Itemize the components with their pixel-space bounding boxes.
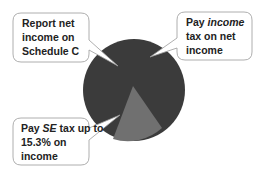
callout-report-line: Report net [22, 16, 79, 30]
emphasis-se: SE [43, 122, 57, 134]
callout-se-tax-text: Pay SE tax up to 15.3% on income [21, 121, 103, 163]
callout-report-text: Report net income on Schedule C [22, 16, 79, 58]
emphasis-income: income [208, 16, 245, 28]
callout-se-tax-line: income [21, 149, 103, 163]
text-prefix: Pay [21, 122, 43, 134]
callout-income-tax-line: Pay income [186, 15, 244, 29]
text-suffix: tax up to [57, 122, 104, 134]
callout-income-tax-line: income [186, 43, 244, 57]
callout-report-line: income on [22, 30, 79, 44]
callout-income-tax-line: tax on net [186, 29, 244, 43]
callout-se-tax-line: 15.3% on [21, 135, 103, 149]
callout-income-tax-text: Pay income tax on net income [186, 15, 244, 57]
callout-report-line: Schedule C [22, 44, 79, 58]
text-prefix: Pay [186, 16, 208, 28]
callout-se-tax-line: Pay SE tax up to [21, 121, 103, 135]
